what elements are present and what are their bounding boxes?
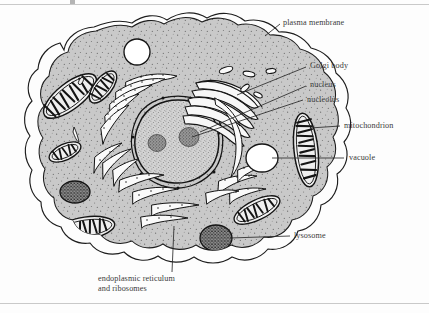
label-mitochondrion: mitochondrion — [344, 121, 394, 131]
label-plasma-membrane: plasma membrane — [283, 18, 344, 28]
label-vacuole: vacuole — [349, 153, 375, 163]
label-lysosome: lysosome — [294, 231, 326, 241]
label-endoplasmic-reticulum: endoplasmic reticulum and ribosomes — [98, 274, 206, 294]
cell-diagram-figure: plasma membrane Golgi body nucleus nucle… — [0, 0, 429, 313]
label-er-line1: endoplasmic reticulum — [98, 274, 175, 283]
label-nucleus: nucleus — [310, 80, 336, 90]
label-golgi-body: Golgi body — [310, 61, 348, 71]
label-er-line2: and ribosomes — [98, 284, 147, 293]
label-nucleolus: nucleolus — [307, 95, 339, 105]
